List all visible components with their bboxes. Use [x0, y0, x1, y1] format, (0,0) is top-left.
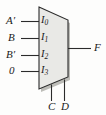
port-label-i0: I0	[41, 15, 48, 26]
port-letter-i1: I	[41, 31, 45, 42]
port-index-i3: 3	[45, 68, 49, 77]
port-letter-i3: I	[41, 64, 45, 75]
port-index-i0: 0	[45, 18, 49, 27]
select-label-c: C	[48, 101, 55, 112]
multiplexer-schematic	[0, 0, 106, 115]
input-label-a-not: A′	[6, 15, 15, 26]
port-index-i1: 1	[45, 35, 49, 44]
port-label-i3: I3	[41, 65, 48, 76]
port-letter-i0: I	[41, 14, 45, 25]
output-label-f: F	[94, 42, 101, 53]
input-label-b-not: B′	[6, 49, 15, 60]
input-label-zero: 0	[9, 65, 15, 76]
multiplexer-figure: A′ B B′ 0 I0 I1 I2 I3 F C D	[0, 0, 106, 115]
port-label-i2: I2	[41, 49, 48, 60]
select-label-d: D	[61, 101, 69, 112]
input-label-b: B	[8, 32, 15, 43]
port-label-i1: I1	[41, 32, 48, 43]
port-index-i2: 2	[45, 52, 49, 61]
port-letter-i2: I	[41, 48, 45, 59]
